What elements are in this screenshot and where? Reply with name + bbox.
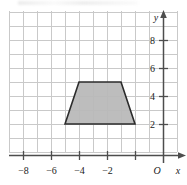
- y-axis-arrow: [160, 10, 167, 18]
- x-tick-label-neg4: −4: [74, 165, 85, 176]
- x-tick-label-neg2: −2: [102, 165, 113, 176]
- trapezoid-shape: [65, 82, 135, 124]
- x-axis-arrow: [178, 152, 186, 159]
- x-axis-label: x: [175, 165, 181, 176]
- y-tick-label-4: 4: [150, 91, 155, 102]
- y-axis-label: y: [153, 12, 159, 23]
- coordinate-grid-figure: 8 6 4 2 −8 −6 −4 −2 O x y: [0, 0, 187, 185]
- x-tick-label-neg6: −6: [46, 165, 57, 176]
- y-tick-label-6: 6: [150, 63, 155, 74]
- y-tick-label-8: 8: [150, 35, 155, 46]
- y-tick-label-2: 2: [150, 119, 155, 130]
- origin-label: O: [153, 165, 160, 176]
- coordinate-plane-svg: 8 6 4 2 −8 −6 −4 −2 O x y: [0, 0, 187, 185]
- x-tick-label-neg8: −8: [18, 165, 29, 176]
